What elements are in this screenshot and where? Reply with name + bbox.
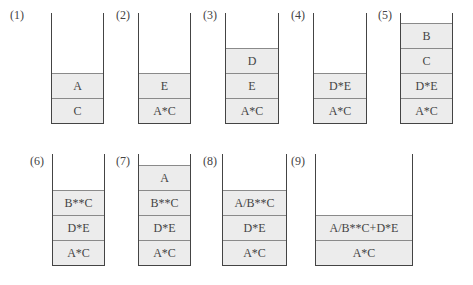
stack-cell: A*C: [314, 98, 366, 123]
stack-label: (4): [291, 8, 305, 23]
stack-6: A*CD*EB**C: [52, 154, 105, 266]
stack-label: (9): [291, 154, 305, 169]
stack-cell: B**C: [53, 190, 104, 215]
stack-cell: A*C: [401, 98, 452, 123]
stack-7: A*CD*EB**CA: [138, 154, 191, 266]
stack-cell: B**C: [139, 190, 190, 215]
stack-2: A*CE: [138, 13, 191, 124]
stack-cell: A*C: [139, 98, 190, 123]
stack-cell: D*E: [314, 73, 366, 98]
stack-9: A*CA/B**C+D*E: [315, 154, 413, 266]
stack-cell: D*E: [401, 73, 452, 98]
stack-1: CA: [51, 13, 104, 124]
stack-cell: A*C: [53, 240, 104, 265]
stack-cell: A/B**C+D*E: [316, 215, 412, 240]
stack-cell: C: [401, 48, 452, 73]
stack-cell: A/B**C: [223, 190, 286, 215]
stack-cell: E: [226, 73, 278, 98]
stack-cell: D*E: [223, 215, 286, 240]
stack-4: A*CD*E: [313, 13, 367, 124]
stack-cell: E: [139, 73, 190, 98]
stack-5: A*CD*ECB: [400, 13, 453, 124]
stack-label: (7): [116, 154, 130, 169]
stack-cell: D: [226, 48, 278, 73]
stack-label: (5): [378, 8, 392, 23]
stack-label: (3): [203, 8, 217, 23]
stack-cell: C: [52, 98, 103, 123]
stack-cell: B: [401, 23, 452, 48]
stack-cell: A*C: [226, 98, 278, 123]
stack-cell: A: [52, 73, 103, 98]
stack-cell: D*E: [53, 215, 104, 240]
stack-label: (2): [116, 8, 130, 23]
stack-cell: D*E: [139, 215, 190, 240]
stack-label: (6): [30, 154, 44, 169]
stack-8: A*CD*EA/B**C: [222, 154, 287, 266]
stack-cell: A: [139, 165, 190, 190]
stack-3: A*CED: [225, 13, 279, 124]
stack-cell: A*C: [223, 240, 286, 265]
stack-label: (1): [10, 8, 24, 23]
stack-cell: A*C: [139, 240, 190, 265]
stack-label: (8): [203, 154, 217, 169]
stack-cell: A*C: [316, 240, 412, 265]
